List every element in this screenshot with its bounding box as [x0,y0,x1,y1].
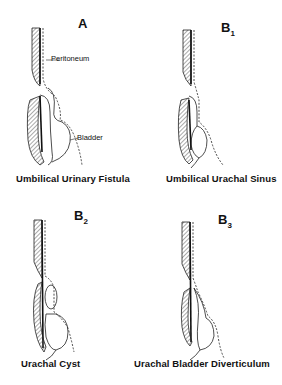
urachal-bladder-diverticulum-illustration [120,192,282,385]
umbilical-urachal-sinus-illustration [141,0,282,192]
label-bladder: Bladder [77,133,103,142]
panel-b1: B1 Umbilical Urachal Sinus [141,0,282,192]
panel-a: A Peritoneum Bladder Umbilical Urinary F… [0,0,141,192]
label-peritoneum: Peritoneum [51,54,89,63]
caption-a: Umbilical Urinary Fistula [16,173,130,184]
umbilical-urinary-fistula-illustration [0,0,141,192]
caption-b2: Urachal Cyst [21,358,80,369]
panel-b3: B3 Urachal Bladder Diverticulum [120,192,282,385]
caption-b3: Urachal Bladder Diverticulum [134,358,270,369]
caption-b1: Umbilical Urachal Sinus [166,173,277,184]
